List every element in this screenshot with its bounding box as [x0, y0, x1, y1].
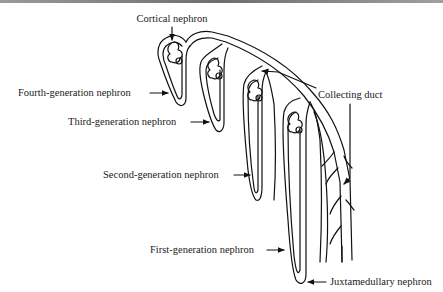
label-second-text: Second-generation nephron: [103, 169, 220, 180]
label-juxtamedullary-text: Juxtamedullary nephron: [330, 276, 433, 287]
label-first-text: First-generation nephron: [150, 244, 255, 255]
third-generation-nephron-shape: [200, 44, 228, 132]
collecting-duct-shape: [186, 31, 354, 262]
nephron-diagram: Cortical nephron Fourth-generation nephr…: [0, 0, 443, 292]
arrow-collecting-duct-lower: [344, 104, 350, 184]
first-generation-nephron-shape: [283, 98, 327, 283]
label-cortical-nephron: Cortical nephron: [137, 13, 209, 40]
diagram-frame: Cortical nephron Fourth-generation nephr…: [0, 0, 443, 292]
label-collecting-duct-text: Collecting duct: [318, 89, 383, 100]
label-fourth-generation: Fourth-generation nephron: [18, 87, 168, 98]
second-generation-nephron-shape: [243, 66, 275, 200]
label-juxtamedullary: Juxtamedullary nephron: [308, 276, 433, 287]
label-third-generation: Third-generation nephron: [68, 116, 209, 127]
label-fourth-text: Fourth-generation nephron: [18, 87, 132, 98]
label-cortical-text: Cortical nephron: [137, 13, 209, 24]
label-second-generation: Second-generation nephron: [103, 169, 250, 180]
fourth-generation-nephron-shape: [158, 35, 190, 105]
label-collecting-duct: Collecting duct: [262, 71, 383, 184]
label-first-generation: First-generation nephron: [150, 244, 284, 255]
label-third-text: Third-generation nephron: [68, 116, 177, 127]
